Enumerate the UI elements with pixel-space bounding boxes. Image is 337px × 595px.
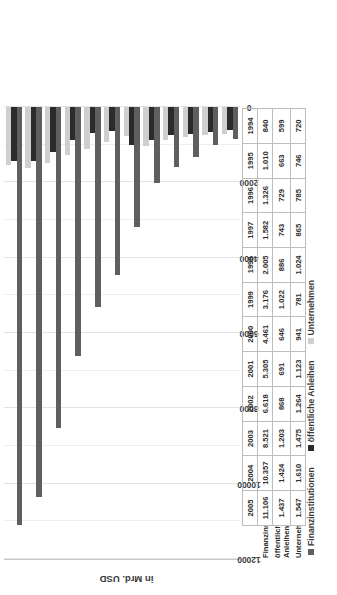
bar-finanzinstitutionen (36, 107, 41, 497)
table-value-cell: 868 (273, 386, 291, 421)
legend-item[interactable]: Finanzinstitutionen (306, 467, 316, 555)
legend-label: öffentliche Anleihen (306, 360, 316, 442)
table-value-cell: 663 (273, 143, 291, 178)
legend-label: Finanzinstitutionen (306, 467, 316, 546)
bar-groups (4, 108, 240, 559)
table-row: Unternehmen1.5471.6101.4751.2641.1239417… (291, 109, 306, 561)
bar-group (142, 108, 162, 559)
table-value-cell: 8.521 (258, 421, 273, 456)
table-row-label: öffentliche Anleihen (273, 525, 291, 560)
bar-finanzinstitutionen (154, 107, 159, 183)
table-value-cell: 2.005 (258, 248, 273, 283)
table-value-cell: 11.106 (258, 491, 273, 526)
table-value-cell: 781 (291, 282, 306, 317)
table-value-cell: 646 (273, 317, 291, 352)
table-value-cell: 1.264 (291, 386, 306, 421)
table-value-cell: 1.203 (273, 421, 291, 456)
table-corner (243, 525, 258, 560)
table-value-cell: 691 (273, 352, 291, 387)
bar-finanzinstitutionen (17, 107, 22, 525)
bar-finanzinstitutionen (213, 107, 218, 145)
table-year-cell: 1996 (243, 178, 258, 213)
legend-item[interactable]: Unternehmen (306, 280, 316, 344)
bar-group (63, 108, 83, 559)
bar-group (161, 108, 181, 559)
y-axis-title-label: in Mrd. USD (99, 574, 153, 585)
table-row-label: Unternehmen (291, 525, 306, 560)
bar-finanzinstitutionen (95, 107, 100, 307)
table-value-cell: 1.610 (291, 456, 306, 491)
table-value-cell: 720 (291, 109, 306, 144)
table-value-cell: 4.461 (258, 317, 273, 352)
legend-swatch (308, 338, 314, 344)
table-value-cell: 3.176 (258, 282, 273, 317)
bar-finanzinstitutionen (174, 107, 179, 167)
table-year-cell: 2005 (243, 491, 258, 526)
bar-group (201, 108, 221, 559)
bar-finanzinstitutionen (75, 107, 80, 356)
table-year-cell: 2004 (243, 456, 258, 491)
table-row-label: Finanzinstitutionen (258, 525, 273, 560)
bar-group (43, 108, 63, 559)
rotated-chart-stage: in Mrd. USD 020004000600080001000012000 … (0, 0, 337, 595)
table-year-cell: 2000 (243, 317, 258, 352)
table-value-cell: 10.357 (258, 456, 273, 491)
table-year-cell: 1997 (243, 213, 258, 248)
table-value-cell: 1.475 (291, 421, 306, 456)
table-value-cell: 6.618 (258, 386, 273, 421)
bar-group (4, 108, 24, 559)
table-value-cell: 941 (291, 317, 306, 352)
legend-item[interactable]: öffentliche Anleihen (306, 360, 316, 451)
table-value-cell: 1.547 (291, 491, 306, 526)
table-value-cell: 1.326 (258, 178, 273, 213)
table-value-cell: 1.010 (258, 143, 273, 178)
bar-finanzinstitutionen (115, 107, 120, 275)
bar-finanzinstitutionen (56, 107, 61, 428)
table-row-years: 2005200420032002200120001999199819971996… (243, 109, 258, 561)
bar-finanzinstitutionen (193, 107, 198, 157)
table-year-cell: 1994 (243, 109, 258, 144)
bar-group (102, 108, 122, 559)
table-value-cell: 1.022 (273, 282, 291, 317)
table-value-cell: 5.305 (258, 352, 273, 387)
legend-label: Unternehmen (306, 280, 316, 335)
table-value-cell: 729 (273, 178, 291, 213)
chart-legend: Finanzinstitutionenöffentliche AnleihenU… (306, 280, 316, 555)
table-year-cell: 2002 (243, 386, 258, 421)
bar-finanzinstitutionen (134, 107, 139, 227)
plot-area (4, 108, 240, 560)
bar-group (181, 108, 201, 559)
table-value-cell: 1.424 (273, 456, 291, 491)
table-row: öffentliche Anleihen1.4371.4241.20386869… (273, 109, 291, 561)
bar-group (122, 108, 142, 559)
table-year-cell: 2003 (243, 421, 258, 456)
table-year-cell: 1995 (243, 143, 258, 178)
table-row: Finanzinstitutionen11.10610.3578.5216.61… (258, 109, 273, 561)
table-value-cell: 1.123 (291, 352, 306, 387)
table-value-cell: 1.582 (258, 213, 273, 248)
chart-figure: in Mrd. USD 020004000600080001000012000 … (0, 0, 337, 595)
table-year-cell: 1999 (243, 282, 258, 317)
data-table: 2005200420032002200120001999199819971996… (242, 108, 306, 560)
legend-swatch (308, 445, 314, 451)
table-value-cell: 865 (291, 213, 306, 248)
table-value-cell: 1.024 (291, 248, 306, 283)
bar-group (83, 108, 103, 559)
legend-swatch (308, 549, 314, 555)
table-value-cell: 746 (291, 143, 306, 178)
table-value-cell: 840 (258, 109, 273, 144)
y-axis-title: in Mrd. USD (0, 569, 252, 589)
table-value-cell: 599 (273, 109, 291, 144)
table-value-cell: 785 (291, 178, 306, 213)
bar-group (24, 108, 44, 559)
table-value-cell: 886 (273, 248, 291, 283)
table-value-cell: 1.437 (273, 491, 291, 526)
table-year-cell: 2001 (243, 352, 258, 387)
table-year-cell: 1998 (243, 248, 258, 283)
table-value-cell: 743 (273, 213, 291, 248)
